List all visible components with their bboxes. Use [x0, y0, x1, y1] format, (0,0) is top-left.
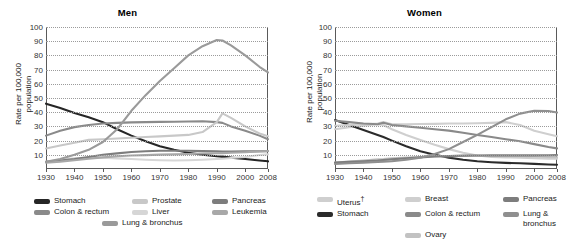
- legend-swatch-stomach: [34, 199, 50, 204]
- gridline: [335, 155, 557, 156]
- x-tick-label: 1930: [326, 173, 344, 182]
- x-tick-mark: [160, 169, 161, 172]
- legend-row: Colon & rectum Liver Leukemia: [34, 207, 286, 217]
- x-tick-mark: [534, 169, 535, 172]
- legend-item-lung-bronchus[interactable]: Lung & bronchus: [503, 209, 565, 229]
- y-axis-label-men-line1: Rate per 100,000: [14, 63, 23, 125]
- y-tick-label: 50: [323, 94, 332, 103]
- plot-area-men: 1020304050607080901001930194019501960197…: [46, 27, 268, 169]
- y-tick-label: 90: [323, 37, 332, 46]
- x-tick-label: 1970: [440, 173, 458, 182]
- x-tick-mark: [363, 169, 364, 172]
- x-tick-mark: [188, 169, 189, 172]
- gridline: [335, 55, 557, 56]
- legend-label-pancreas: Pancreas: [523, 194, 557, 204]
- legend-label-ovary: Ovary: [425, 230, 446, 240]
- legend-label-stomach: Stomach: [337, 209, 369, 219]
- legend-row: Lung & bronchus: [34, 218, 286, 228]
- legend-item-colon-rectum[interactable]: Colon & rectum: [405, 209, 503, 219]
- panel-men: Men Rate per 100,000 population 10203040…: [0, 0, 291, 240]
- gridline: [46, 55, 268, 56]
- panel-title-men: Men: [0, 7, 273, 18]
- legend-item-prostate[interactable]: Prostate: [132, 196, 212, 206]
- legend-item-liver[interactable]: Liver: [132, 207, 212, 217]
- x-tick-label: 2000: [525, 173, 543, 182]
- y-axis-label-women: Rate per 100,000 population: [305, 46, 324, 138]
- legend-label-prostate: Prostate: [152, 196, 182, 206]
- legend-item-stomach[interactable]: Stomach: [34, 196, 132, 206]
- gridline: [46, 84, 268, 85]
- legend-swatch-stomach: [317, 212, 333, 217]
- legend-swatch-colon-rectum: [34, 210, 50, 215]
- y-axis-label-women-line1: Rate per 100,000: [305, 61, 314, 123]
- y-axis-label-men-line2: population: [24, 76, 33, 113]
- x-tick-label: 1950: [383, 173, 401, 182]
- panel-title-women: Women: [279, 7, 570, 18]
- x-tick-label: 2008: [259, 173, 277, 182]
- gridline: [46, 27, 268, 28]
- legend-item-pancreas[interactable]: Pancreas: [212, 196, 266, 206]
- panel-women: Women Rate per 100,000 population 102030…: [291, 0, 582, 240]
- legend-men: Stomach Prostate Pancreas Colon & rectum: [34, 196, 286, 229]
- gridline: [46, 126, 268, 127]
- x-tick-mark: [131, 169, 132, 172]
- gridline: [46, 155, 268, 156]
- legend-row: Ovary: [317, 230, 579, 240]
- legend-women: Uterus† Breast Pancreas Stomach: [317, 194, 579, 240]
- x-tick-label: 1960: [411, 173, 429, 182]
- y-axis-label-men: Rate per 100,000 population: [14, 48, 33, 140]
- x-tick-mark: [245, 169, 246, 172]
- legend-swatch-liver: [132, 210, 148, 215]
- y-tick-label: 60: [323, 79, 332, 88]
- gridline: [335, 112, 557, 113]
- chart-sheet: Men Rate per 100,000 population 10203040…: [0, 0, 582, 240]
- x-tick-label: 1940: [66, 173, 84, 182]
- y-tick-label: 40: [323, 108, 332, 117]
- legend-swatch-breast: [405, 197, 421, 202]
- y-tick-label: 80: [34, 51, 43, 60]
- x-tick-label: 1990: [497, 173, 515, 182]
- legend-label-liver: Liver: [152, 207, 169, 217]
- legend-label-breast: Breast: [425, 194, 448, 204]
- gridline: [46, 41, 268, 42]
- x-tick-label: 1980: [468, 173, 486, 182]
- legend-item-stomach[interactable]: Stomach: [317, 209, 405, 219]
- dagger-symbol: †: [361, 195, 365, 202]
- y-tick-label: 80: [323, 51, 332, 60]
- x-tick-label: 1980: [179, 173, 197, 182]
- x-tick-label: 2000: [236, 173, 254, 182]
- legend-swatch-prostate: [132, 199, 148, 204]
- legend-item-ovary[interactable]: Ovary: [405, 230, 446, 240]
- series-line-lung-bronchus: [46, 40, 268, 162]
- y-tick-label: 30: [323, 122, 332, 131]
- legend-item-colon-rectum[interactable]: Colon & rectum: [34, 207, 132, 217]
- legend-label-pancreas: Pancreas: [232, 196, 266, 206]
- legend-item-leukemia[interactable]: Leukemia: [212, 207, 267, 217]
- legend-item-pancreas[interactable]: Pancreas: [503, 194, 557, 204]
- y-tick-label: 90: [34, 37, 43, 46]
- gridline: [335, 41, 557, 42]
- legend-row: Uterus† Breast Pancreas: [317, 194, 579, 208]
- gridline: [335, 70, 557, 71]
- legend-item-breast[interactable]: Breast: [405, 194, 503, 204]
- legend-swatch-uterus: [317, 197, 333, 202]
- legend-swatch-leukemia: [212, 210, 228, 215]
- gridline: [335, 98, 557, 99]
- x-tick-label: 1990: [208, 173, 226, 182]
- x-tick-label: 1960: [122, 173, 140, 182]
- x-tick-mark: [506, 169, 507, 172]
- y-tick-label: 30: [34, 122, 43, 131]
- y-tick-label: 70: [323, 65, 332, 74]
- y-tick-label: 40: [34, 108, 43, 117]
- x-tick-mark: [217, 169, 218, 172]
- gridline: [335, 141, 557, 142]
- x-tick-mark: [74, 169, 75, 172]
- x-tick-label: 1940: [355, 173, 373, 182]
- legend-item-lung-bronchus[interactable]: Lung & bronchus: [102, 218, 183, 228]
- gridline: [335, 84, 557, 85]
- legend-row: Stomach Colon & rectum Lung & bronchus: [317, 209, 579, 229]
- y-tick-label: 60: [34, 79, 43, 88]
- legend-label-lung-bronchus: Lung & bronchus: [523, 209, 565, 229]
- legend-label-lung-bronchus: Lung & bronchus: [122, 218, 183, 228]
- legend-item-uterus[interactable]: Uterus†: [317, 194, 405, 208]
